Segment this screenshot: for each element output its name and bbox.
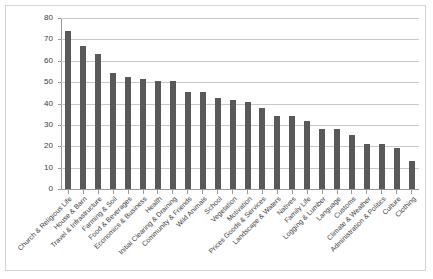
x-tick-mark — [292, 190, 293, 194]
x-tick-mark — [83, 190, 84, 194]
y-tick-label-20: 20 — [6, 142, 53, 150]
plot-area — [61, 18, 419, 189]
bar-slot — [76, 18, 91, 189]
bar — [304, 121, 310, 189]
bar-slot — [255, 18, 270, 189]
bar — [349, 135, 355, 190]
bar — [259, 108, 265, 189]
bar — [95, 54, 101, 189]
bar — [379, 144, 385, 189]
bar-slot — [91, 18, 106, 189]
bar-slot — [315, 18, 330, 189]
bar — [110, 73, 116, 189]
x-tick-mark — [262, 190, 263, 194]
y-tick-label-70: 70 — [6, 35, 53, 43]
x-tick-mark — [98, 190, 99, 194]
bar — [274, 116, 280, 189]
bar-slot — [225, 18, 240, 189]
bar — [364, 144, 370, 189]
bar — [140, 79, 146, 189]
bar — [200, 92, 206, 189]
bar-series — [61, 18, 419, 189]
bar — [245, 102, 251, 189]
x-tick-mark — [113, 190, 114, 194]
bar — [334, 129, 340, 189]
x-tick-mark — [157, 190, 158, 194]
x-tick-mark — [187, 190, 188, 194]
bar — [170, 81, 176, 189]
x-tick-mark — [307, 190, 308, 194]
bar-slot — [285, 18, 300, 189]
x-tick-mark — [217, 190, 218, 194]
bar — [215, 98, 221, 189]
bar — [80, 46, 86, 189]
x-tick-mark — [202, 190, 203, 194]
bar-slot — [389, 18, 404, 189]
bar — [319, 129, 325, 189]
x-tick-mark — [143, 190, 144, 194]
bar-slot — [136, 18, 151, 189]
bar — [185, 92, 191, 189]
y-tick-label-10: 10 — [6, 164, 53, 172]
x-tick-mark — [128, 190, 129, 194]
bar-slot — [345, 18, 360, 189]
bar-slot — [300, 18, 315, 189]
bar-slot — [106, 18, 121, 189]
bar-slot — [270, 18, 285, 189]
x-tick-mark — [232, 190, 233, 194]
bar — [230, 100, 236, 189]
y-tick-label-40: 40 — [6, 100, 53, 108]
bar-slot — [330, 18, 345, 189]
chart-frame: 80706050403020100 Church & Religious Lif… — [5, 5, 426, 271]
x-axis-category-label: Church & Religious Life — [17, 195, 74, 252]
x-tick-mark — [247, 190, 248, 194]
y-tick-label-80: 80 — [6, 14, 53, 22]
bar — [65, 31, 71, 189]
bar-slot — [404, 18, 419, 189]
x-label-slot: Clothing — [404, 195, 419, 271]
bar — [125, 77, 131, 189]
bar-slot — [240, 18, 255, 189]
bar — [155, 81, 161, 189]
bar — [409, 161, 415, 189]
x-tick-mark — [381, 190, 382, 194]
bar-slot — [61, 18, 76, 189]
bar-slot — [359, 18, 374, 189]
bar — [394, 148, 400, 189]
bar-slot — [180, 18, 195, 189]
bar-slot — [121, 18, 136, 189]
bar-slot — [374, 18, 389, 189]
x-tick-mark — [277, 190, 278, 194]
bar-slot — [151, 18, 166, 189]
y-tick-label-50: 50 — [6, 78, 53, 86]
bar-slot — [165, 18, 180, 189]
y-tick-label-60: 60 — [6, 57, 53, 65]
bar-slot — [195, 18, 210, 189]
x-tick-mark — [172, 190, 173, 194]
bar — [289, 116, 295, 189]
x-axis-labels: Church & Religious LifeHouse & BarnTrave… — [61, 195, 419, 271]
x-tick-mark — [337, 190, 338, 194]
x-tick-mark — [68, 190, 69, 194]
chart-plot-wrapper: 80706050403020100 Church & Religious Lif… — [6, 6, 425, 270]
y-tick-label-0: 0 — [6, 185, 53, 193]
bar-slot — [210, 18, 225, 189]
y-tick-label-30: 30 — [6, 121, 53, 129]
x-tick-mark — [322, 190, 323, 194]
x-tick-mark — [351, 190, 352, 194]
